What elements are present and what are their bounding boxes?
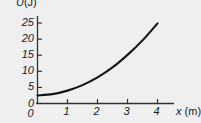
y-tick-label: 20 [8,33,34,44]
y-axis-title: U(J) [16,0,37,8]
x-tick-label: 1 [64,106,70,117]
x-tick-label: 2 [94,106,100,117]
y-axis-symbol: U [16,0,24,8]
x-tick-label: 3 [124,106,130,117]
y-tick-label: 15 [8,49,34,60]
x-origin-label: 0 [28,108,34,119]
x-axis-symbol: x [176,105,182,117]
x-axis-title: x (m) [176,106,201,117]
y-axis-unit: (J) [24,0,37,8]
energy-position-chart: U(J) x (m) 0510152025 01234 [0,0,201,123]
x-axis-unit: (m) [185,105,201,117]
x-tick-marks [68,99,158,104]
y-tick-label: 5 [8,81,34,92]
data-curve [38,23,158,95]
x-tick-label: 4 [154,106,160,117]
y-tick-label: 10 [8,65,34,76]
y-tick-marks [38,23,43,87]
y-tick-label: 25 [8,17,34,28]
